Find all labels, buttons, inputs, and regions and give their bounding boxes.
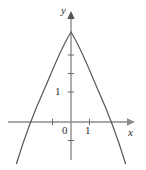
y-axis-label: y bbox=[61, 5, 66, 16]
parabola-figure: y x 0 1 1 bbox=[0, 0, 146, 170]
x-axis-arrowhead bbox=[127, 118, 135, 125]
y-axis bbox=[67, 11, 74, 160]
y-tick-label-one: 1 bbox=[55, 86, 61, 97]
x-tick-label-one: 1 bbox=[85, 125, 91, 136]
origin-tick-label: 0 bbox=[62, 125, 68, 136]
y-axis-arrowhead bbox=[67, 11, 74, 19]
plot-canvas bbox=[0, 0, 146, 170]
x-axis-label: x bbox=[128, 127, 133, 138]
